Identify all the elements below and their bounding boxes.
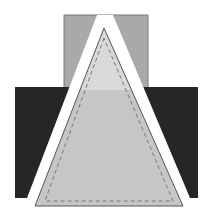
diagram-canvas <box>0 0 210 216</box>
pattern-diagram <box>0 0 210 216</box>
